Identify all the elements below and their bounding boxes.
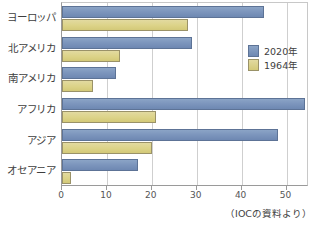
legend-item[interactable]: 1964年 [248,58,298,71]
category-label: オセアニア [7,165,56,176]
legend-swatch-icon [248,59,259,71]
x-axis: 01020304050 [61,186,308,202]
bar [62,159,138,171]
category-label: アフリカ [17,104,56,115]
legend-item[interactable]: 2020年 [248,44,298,57]
bar [62,50,120,62]
bar [62,111,156,123]
category-axis-labels: ヨーロッパ北アメリカ南アメリカアフリカアジアオセアニア [0,0,58,186]
plot-area [61,2,308,186]
chart-legend: 2020年1964年 [248,44,312,74]
bar [62,98,305,110]
gridline [287,3,288,185]
bar [62,6,264,18]
legend-label: 1964年 [264,58,298,72]
x-axis-tick-label: 10 [100,190,111,200]
category-label: ヨーロッパ [7,12,56,23]
bar [62,172,71,184]
x-axis-tick-label: 0 [58,190,64,200]
chart-container: ヨーロッパ北アメリカ南アメリカアフリカアジアオセアニア 2020年1964年 0… [0,0,318,228]
gridline [242,3,243,185]
x-axis-tick-label: 20 [145,190,156,200]
x-axis-tick-label: 40 [235,190,246,200]
bar [62,129,278,141]
legend-label: 2020年 [264,44,298,58]
x-axis-tick-label: 30 [190,190,201,200]
gridline [197,3,198,185]
bar [62,80,93,92]
bar [62,67,116,79]
category-label: 北アメリカ [8,43,56,54]
bar [62,142,152,154]
legend-swatch-icon [248,45,259,57]
x-axis-tick-label: 50 [280,190,291,200]
category-label: 南アメリカ [8,73,56,84]
bar [62,19,188,31]
category-label: アジア [27,135,56,146]
source-note: （IOCの資料より） [225,206,312,220]
bar [62,37,192,49]
